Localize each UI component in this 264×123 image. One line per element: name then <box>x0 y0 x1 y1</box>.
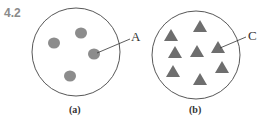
figure-diagram <box>0 0 264 123</box>
container-circle-a <box>32 8 120 96</box>
particle-circle <box>88 49 100 60</box>
particle-triangle <box>166 65 180 77</box>
caption-a: (a) <box>69 104 81 115</box>
particle-circle <box>75 28 87 39</box>
particle-triangle <box>168 46 182 58</box>
caption-b: (b) <box>189 104 201 115</box>
particle-triangle <box>164 29 178 41</box>
particle-triangle <box>193 20 207 32</box>
callout-line-c <box>220 37 246 48</box>
callout-line-a <box>97 39 130 53</box>
particle-triangle <box>190 45 204 57</box>
particle-circle <box>64 71 76 82</box>
panel-b <box>152 11 246 99</box>
particle-circle <box>48 38 60 49</box>
particle-triangle <box>215 61 229 73</box>
particle-triangle <box>193 73 207 85</box>
panel-a <box>32 8 130 96</box>
callout-label-c: C <box>248 28 257 44</box>
callout-label-a: A <box>131 29 140 45</box>
